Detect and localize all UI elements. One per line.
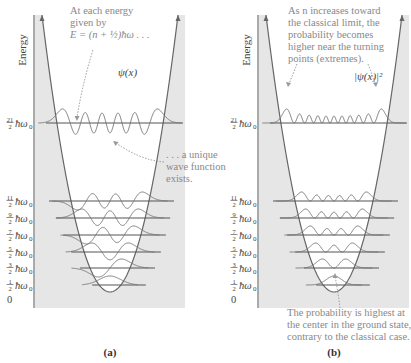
level-label: 72ħω0 — [7, 228, 34, 244]
svg-text:0: 0 — [29, 252, 33, 260]
svg-text:0: 0 — [29, 218, 33, 226]
svg-text:ħω: ħω — [239, 213, 252, 224]
svg-text:2: 2 — [232, 252, 235, 259]
svg-text:21: 21 — [231, 116, 238, 123]
svg-text:0: 0 — [253, 218, 257, 226]
svg-text:0: 0 — [29, 201, 33, 209]
level-label: 32ħω0 — [7, 261, 34, 277]
svg-text:2: 2 — [8, 252, 11, 259]
annotation-side-a: wave function — [166, 161, 227, 172]
svg-text:11: 11 — [231, 194, 237, 201]
annotation-top-b: probability becomes — [288, 29, 373, 40]
annotation-top-a: At each energy — [70, 5, 134, 16]
svg-text:2: 2 — [8, 235, 11, 242]
svg-text:3: 3 — [8, 261, 11, 268]
svg-text:ħω: ħω — [15, 230, 28, 241]
level-label: 212ħω0 — [7, 116, 34, 132]
level-label: 92ħω0 — [231, 211, 258, 227]
annotation-top-b: points (extremes). — [288, 53, 364, 65]
panel-caption: (a) — [104, 346, 117, 359]
annotation-top-b: higher near the turning — [288, 41, 385, 52]
annotation-top-b: As n increases toward — [288, 5, 381, 16]
svg-text:0: 0 — [29, 123, 33, 131]
svg-text:ħω: ħω — [239, 280, 252, 291]
svg-text:2: 2 — [8, 285, 11, 292]
svg-text:2: 2 — [8, 218, 11, 225]
zero-label: 0 — [7, 294, 12, 305]
annotation-bottom-b: The probability is highest at — [287, 307, 405, 318]
svg-text:2: 2 — [232, 268, 235, 275]
svg-text:3: 3 — [232, 261, 235, 268]
level-label: 32ħω0 — [231, 261, 258, 277]
svg-text:9: 9 — [8, 211, 11, 218]
svg-text:ħω: ħω — [239, 247, 252, 258]
svg-text:ħω: ħω — [239, 196, 252, 207]
svg-text:ħω: ħω — [15, 263, 28, 274]
svg-text:0: 0 — [29, 235, 33, 243]
level-label: 52ħω0 — [7, 245, 34, 261]
svg-text:ħω: ħω — [15, 118, 28, 129]
svg-text:2: 2 — [232, 285, 235, 292]
svg-text:1: 1 — [8, 278, 11, 285]
svg-text:ħω: ħω — [239, 230, 252, 241]
svg-text:2: 2 — [8, 201, 11, 208]
annotation-top-a: given by — [70, 17, 107, 28]
level-label: 212ħω0 — [231, 116, 258, 132]
svg-text:0: 0 — [253, 285, 257, 293]
svg-text:0: 0 — [29, 268, 33, 276]
svg-text:21: 21 — [7, 116, 14, 123]
level-label: 12ħω0 — [7, 278, 34, 294]
svg-text:ħω: ħω — [15, 213, 28, 224]
svg-text:1: 1 — [232, 278, 235, 285]
axis-label: Energy — [16, 34, 28, 66]
svg-text:5: 5 — [232, 245, 235, 252]
svg-text:0: 0 — [253, 123, 257, 131]
svg-text:7: 7 — [8, 228, 12, 235]
svg-text:2: 2 — [232, 201, 235, 208]
svg-text:ħω: ħω — [15, 247, 28, 258]
svg-text:2: 2 — [232, 218, 235, 225]
curve-label: |ψ(x)|² — [354, 70, 383, 83]
panel-a: Energy212ħω0112ħω092ħω072ħω052ħω032ħω012… — [7, 15, 186, 359]
axis-label: Energy — [240, 34, 252, 66]
annotation-bottom-b: the center in the ground state, — [287, 319, 411, 330]
svg-text:ħω: ħω — [239, 118, 252, 129]
svg-text:2: 2 — [8, 123, 11, 130]
level-label: 72ħω0 — [231, 228, 258, 244]
svg-text:9: 9 — [232, 211, 235, 218]
level-label: 92ħω0 — [7, 211, 34, 227]
svg-text:7: 7 — [232, 228, 236, 235]
svg-text:0: 0 — [29, 285, 33, 293]
svg-text:ħω: ħω — [15, 196, 28, 207]
svg-text:2: 2 — [232, 235, 235, 242]
annotation-bottom-b: contrary to the classical case. — [287, 331, 410, 342]
svg-text:0: 0 — [253, 201, 257, 209]
annotation-side-a: exists. — [166, 173, 193, 184]
svg-text:0: 0 — [253, 235, 257, 243]
level-label: 112ħω0 — [7, 194, 34, 210]
level-label: 112ħω0 — [231, 194, 258, 210]
svg-text:ħω: ħω — [15, 280, 28, 291]
annotation-top-b: the classical limit, the — [288, 17, 380, 28]
svg-text:0: 0 — [253, 268, 257, 276]
annotation-side-a: . . . a unique — [166, 149, 218, 160]
svg-text:ħω: ħω — [239, 263, 252, 274]
svg-text:11: 11 — [7, 194, 13, 201]
svg-text:2: 2 — [232, 123, 235, 130]
harmonic-oscillator-diagram: Energy212ħω0112ħω092ħω072ħω052ħω032ħω012… — [0, 0, 411, 363]
level-label: 12ħω0 — [231, 278, 258, 294]
svg-text:2: 2 — [8, 268, 11, 275]
panel-caption: (b) — [327, 346, 341, 359]
level-label: 52ħω0 — [231, 245, 258, 261]
svg-text:5: 5 — [8, 245, 11, 252]
annotation-top-a: E = (n + ½)ħω . . . — [69, 29, 150, 41]
zero-label: 0 — [231, 294, 236, 305]
curve-label: ψ(x) — [118, 66, 137, 79]
svg-text:0: 0 — [253, 252, 257, 260]
